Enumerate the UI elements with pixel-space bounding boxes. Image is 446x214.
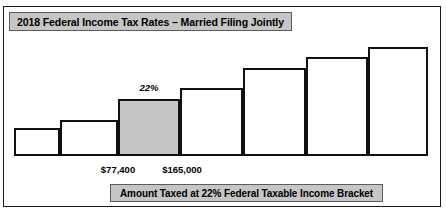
chart-caption: Amount Taxed at 22% Federal Taxable Inco… [110,184,383,202]
tax-bracket-chart: 2018 Federal Income Tax Rates – Married … [0,0,446,214]
chart-title: 2018 Federal Income Tax Rates – Married … [9,12,292,31]
chart-frame [3,6,441,207]
